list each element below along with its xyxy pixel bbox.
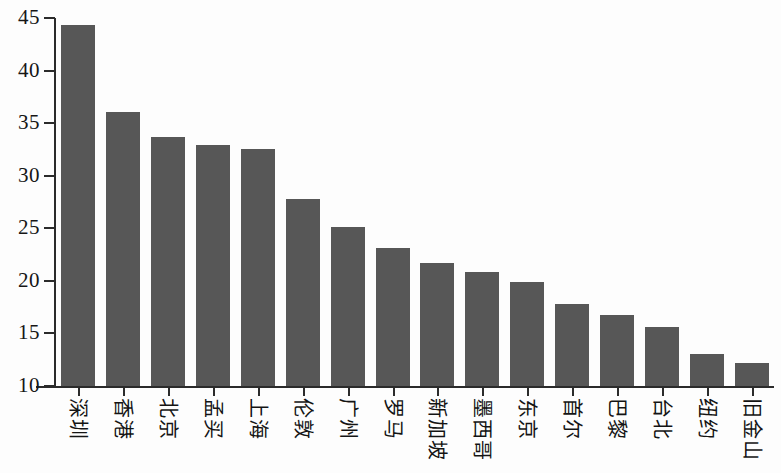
- x-axis-tick-label: 墨西哥: [472, 398, 492, 461]
- y-axis-tick-label: 20: [0, 270, 40, 291]
- y-axis-tick: [44, 332, 55, 334]
- x-axis-tick-label: 首尔: [562, 398, 582, 440]
- bar: [690, 354, 724, 386]
- bar: [61, 25, 95, 386]
- x-axis-tick-label: 上海: [248, 398, 268, 440]
- x-axis-tick-label: 东京: [517, 398, 537, 440]
- bar: [600, 315, 634, 386]
- x-axis-tick: [752, 388, 754, 396]
- y-axis-tick: [44, 175, 55, 177]
- x-axis-tick: [617, 388, 619, 396]
- bar: [645, 327, 679, 386]
- x-axis-tick-label: 北京: [158, 398, 178, 440]
- x-axis-tick-label: 纽约: [697, 398, 717, 440]
- x-axis-tick: [527, 388, 529, 396]
- bar: [735, 363, 769, 386]
- y-axis-tick: [44, 385, 55, 387]
- x-axis-tick: [348, 388, 350, 396]
- y-axis-tick: [44, 122, 55, 124]
- x-axis-tick: [393, 388, 395, 396]
- y-axis-tick-label: 10: [0, 375, 40, 396]
- y-axis-tick-label: 25: [0, 217, 40, 238]
- x-axis-tick: [168, 388, 170, 396]
- x-axis-tick: [78, 388, 80, 396]
- y-axis-tick-label: 45: [0, 7, 40, 28]
- x-axis-tick-label: 新加坡: [427, 398, 447, 461]
- x-axis-tick-label: 香港: [113, 398, 133, 440]
- x-axis-tick: [123, 388, 125, 396]
- x-axis-tick: [437, 388, 439, 396]
- bar-chart: 1015202530354045 深圳香港北京孟买上海伦敦广州罗马新加坡墨西哥东…: [0, 0, 781, 473]
- bar: [555, 304, 589, 386]
- y-axis-tick: [44, 280, 55, 282]
- x-axis-tick-label: 台北: [652, 398, 672, 440]
- x-axis-tick-label: 伦敦: [293, 398, 313, 440]
- x-axis-tick-label: 深圳: [68, 398, 88, 440]
- bar: [286, 199, 320, 386]
- y-axis-tick-label: 15: [0, 322, 40, 343]
- x-axis-tick: [482, 388, 484, 396]
- y-axis-tick-label-text: 15: [0, 322, 40, 343]
- x-axis-tick: [662, 388, 664, 396]
- x-axis-tick-label: 罗马: [383, 398, 403, 440]
- y-axis-tick-label-text: 40: [0, 60, 40, 81]
- x-axis-tick-label: 广州: [338, 398, 358, 440]
- y-axis-tick-label-text: 20: [0, 270, 40, 291]
- y-axis-tick: [44, 227, 55, 229]
- x-axis-tick: [707, 388, 709, 396]
- bar: [106, 112, 140, 386]
- y-axis-tick-label-text: 45: [0, 7, 40, 28]
- x-axis-tick: [303, 388, 305, 396]
- bar: [420, 263, 454, 386]
- bar: [241, 149, 275, 386]
- bar: [376, 248, 410, 386]
- bar: [151, 137, 185, 386]
- x-axis-tick-label: 旧金山: [742, 398, 762, 461]
- bar: [331, 227, 365, 386]
- y-axis-tick-label: 30: [0, 165, 40, 186]
- y-axis-tick-label-text: 25: [0, 217, 40, 238]
- y-axis-tick-label-text: 10: [0, 375, 40, 396]
- x-axis-tick: [572, 388, 574, 396]
- bar: [510, 282, 544, 386]
- y-axis-tick-label: 35: [0, 112, 40, 133]
- bar: [196, 145, 230, 386]
- y-axis-tick: [44, 17, 55, 19]
- y-axis-tick-label-text: 30: [0, 165, 40, 186]
- x-axis-tick: [258, 388, 260, 396]
- x-axis-tick: [213, 388, 215, 396]
- x-axis-tick-label: 孟买: [203, 398, 223, 440]
- y-axis-tick-label-text: 35: [0, 112, 40, 133]
- x-axis-tick-label: 巴黎: [607, 398, 627, 440]
- y-axis-tick-label: 40: [0, 60, 40, 81]
- bar: [465, 272, 499, 386]
- y-axis-tick: [44, 70, 55, 72]
